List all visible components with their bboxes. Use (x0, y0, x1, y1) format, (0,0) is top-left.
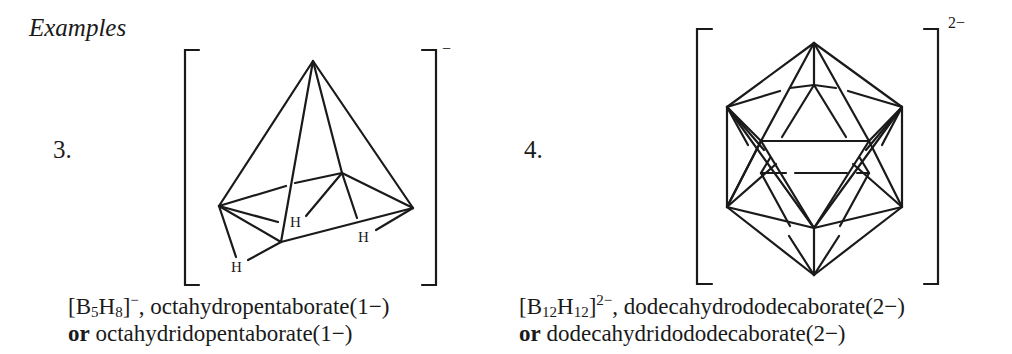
caption-line-2: or octahydridopentaborate(1−) (68, 320, 389, 347)
bracket-charge: − (442, 40, 451, 58)
example-3-caption: [B5H8]−, octahydropentaborate(1−) or oct… (68, 293, 389, 347)
right-bracket (422, 50, 436, 285)
caption-line-1: [B5H8]−, octahydropentaborate(1−) (68, 293, 389, 320)
bridging-hydrogen-label: H (290, 214, 301, 231)
bracket-charge: 2− (948, 14, 965, 32)
caption-line-1: [B12H12]2−, dodecahydrododecaborate(2−) (519, 293, 905, 320)
bridging-hydrogen-label: H (358, 229, 369, 246)
left-bracket (185, 50, 199, 285)
pentaborate-structure (185, 50, 436, 285)
dodecaborate-structure (697, 29, 938, 284)
example-number-4: 4. (524, 136, 543, 164)
caption-line-2: or dodecahydridododecaborate(2−) (519, 320, 905, 347)
example-4-caption: [B12H12]2−, dodecahydrododecaborate(2−) … (519, 293, 905, 347)
right-bracket (924, 29, 938, 284)
bridging-hydrogen-label: H (231, 259, 242, 276)
left-bracket (697, 29, 712, 284)
